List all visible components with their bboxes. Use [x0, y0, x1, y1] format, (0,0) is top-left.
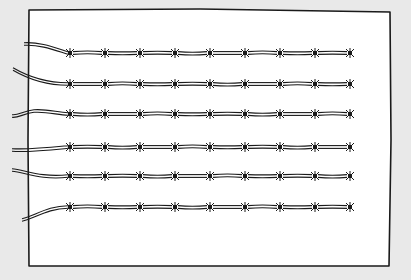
wire-segment: [143, 112, 172, 113]
wire-segment: [248, 113, 277, 114]
wire-segment: [108, 148, 137, 149]
wire-segment: [178, 206, 207, 207]
wire-segment: [213, 174, 242, 175]
wire-segment: [318, 177, 347, 178]
wire-segment: [283, 146, 312, 147]
wire-segment: [178, 52, 207, 53]
wire-segment: [318, 112, 347, 113]
wire-segment: [73, 51, 102, 52]
wire-segment: [143, 115, 172, 116]
wire-segment: [178, 208, 207, 209]
wire-segment: [283, 85, 312, 86]
wire-segment: [248, 205, 277, 206]
wire-segment: [73, 115, 102, 116]
wire-segment: [108, 82, 137, 83]
wire-segment: [73, 113, 102, 114]
barbed-wire-drawing: [0, 0, 411, 280]
wire-segment: [143, 177, 172, 178]
wire-segment: [178, 148, 207, 149]
wire-segment: [108, 146, 137, 147]
wire-segment: [283, 148, 312, 149]
wire-segment: [248, 51, 277, 52]
wire-segment: [73, 54, 102, 55]
wire-segment: [248, 54, 277, 55]
wire-segment: [213, 177, 242, 178]
wire-segment: [213, 85, 242, 86]
wire-segment: [318, 175, 347, 176]
paper-sheet: [28, 9, 391, 266]
wire-segment: [73, 205, 102, 206]
wire-segment: [248, 115, 277, 116]
wire-segment: [318, 115, 347, 116]
wire-segment: [213, 83, 242, 84]
wire-segment: [178, 145, 207, 146]
wire-segment: [283, 82, 312, 83]
wire-segment: [143, 175, 172, 176]
wire-segment: [73, 208, 102, 209]
wire-segment: [108, 85, 137, 86]
wire-segment: [248, 208, 277, 209]
wire-segment: [178, 54, 207, 55]
